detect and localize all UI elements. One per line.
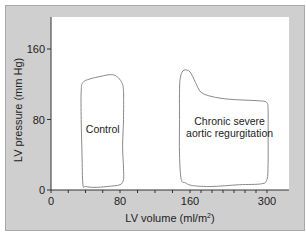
control-label: Control	[86, 123, 120, 135]
aortic-regurgitation-label: Chronic severeaortic regurgitation	[186, 115, 273, 139]
y-tick-label: 0	[39, 184, 45, 196]
y-tick-label: 80	[33, 114, 45, 126]
x-axis-title: LV volume (ml/m2)	[125, 212, 214, 224]
x-tick-label: 80	[114, 195, 126, 207]
x-tick-label: 0	[48, 195, 54, 207]
plot-area	[51, 17, 289, 190]
y-axis-title: LV pressure (mm Hg)	[12, 58, 24, 162]
x-axis-ticks: 080160300	[48, 190, 276, 207]
y-tick-label: 160	[27, 43, 45, 55]
chart-svg: ControlChronic severeaortic regurgitatio…	[0, 0, 306, 240]
y-axis-ticks: 080160	[27, 43, 51, 196]
x-tick-label: 300	[258, 195, 276, 207]
x-tick-label: 160	[181, 195, 199, 207]
